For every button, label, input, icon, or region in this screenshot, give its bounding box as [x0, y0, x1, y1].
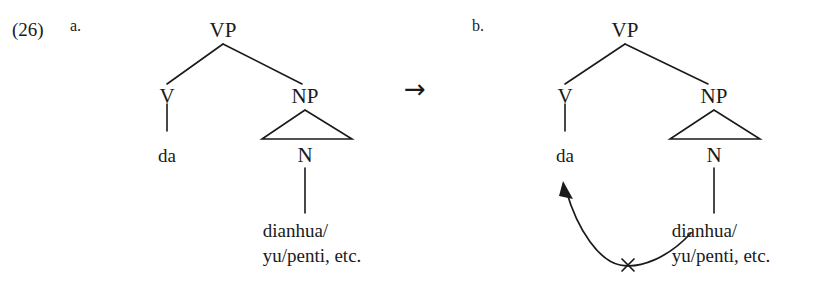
tree-a-branches: [167, 44, 305, 213]
movement-arrowhead-b: [559, 181, 573, 199]
tree-label-a: a.: [70, 18, 81, 34]
node-np-b: NP: [701, 86, 728, 107]
branch-vp-to-np-a: [223, 44, 302, 84]
branch-vp-to-v-a: [167, 44, 223, 84]
node-vp-b: VP: [612, 20, 639, 41]
node-vp-a: VP: [210, 20, 237, 41]
terminal-noun-b-line2: yu/penti, etc.: [672, 244, 771, 269]
node-np-a: NP: [292, 86, 319, 107]
syntax-tree-figure: (26) → a. VP V NP N da dianhua/ yu/penti…: [0, 0, 824, 285]
branch-vp-to-v-b: [565, 44, 625, 84]
tree-label-b: b.: [472, 18, 484, 34]
terminal-noun-a-line1: dianhua/: [263, 219, 362, 244]
node-n-a: N: [297, 145, 312, 166]
example-number: (26): [12, 20, 44, 39]
terminal-noun-b: dianhua/ yu/penti, etc.: [672, 219, 771, 268]
np-triangle-b: [670, 110, 760, 139]
np-triangle-a: [262, 110, 352, 139]
terminal-verb-a: da: [158, 146, 176, 165]
node-v-a: V: [159, 86, 174, 107]
transform-arrow-icon: →: [404, 76, 426, 102]
terminal-verb-b: da: [556, 146, 574, 165]
branch-vp-to-np-b: [625, 44, 708, 84]
tree-b-branches: [565, 44, 714, 213]
node-n-b: N: [706, 145, 721, 166]
node-v-b: V: [557, 86, 572, 107]
terminal-noun-a: dianhua/ yu/penti, etc.: [263, 219, 362, 268]
terminal-noun-a-line2: yu/penti, etc.: [263, 244, 362, 269]
terminal-noun-b-line1: dianhua/: [672, 219, 771, 244]
